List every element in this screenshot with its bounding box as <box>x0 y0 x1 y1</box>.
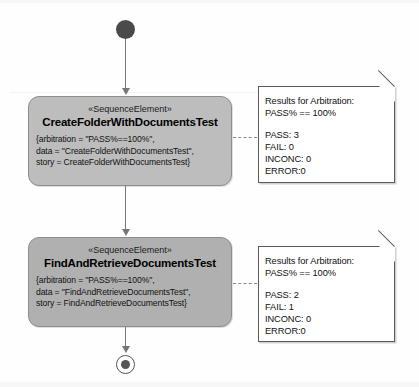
activity-2-property-data: data = "FindAndRetrieveDocumentsTest", <box>36 287 231 299</box>
activity-1-property-story: story = CreateFolderWithDocumentsTest} <box>36 157 231 169</box>
activity-2-property-story: story = FindAndRetrieveDocumentsTest} <box>36 298 231 310</box>
activity-2-title: FindAndRetrieveDocumentsTest <box>29 257 231 269</box>
note-1-result-error: ERROR:0 <box>265 165 394 177</box>
note-1-result-pass: PASS: 3 <box>265 129 394 141</box>
final-node-inner-dot <box>121 360 130 369</box>
note-2-body: Results for Arbitration: PASS% == 100% P… <box>259 247 394 338</box>
scan-artifact <box>10 92 260 93</box>
activity-1-title: CreateFolderWithDocumentsTest <box>29 116 231 128</box>
activity-1-properties: {arbitration = "PASS%==100%", data = "Cr… <box>36 134 231 169</box>
activity-2-property-arbitration: {arbitration = "PASS%==100%", <box>36 275 231 287</box>
note-2-header: Results for Arbitration: <box>265 255 394 267</box>
note-link-activity-1 <box>233 137 257 138</box>
note-fold-corner-icon <box>379 246 395 262</box>
initial-node[interactable] <box>116 20 135 39</box>
note-1-criterion: PASS% == 100% <box>265 107 394 119</box>
arrow-head-final <box>122 346 130 353</box>
arrow-head-activity-1 <box>122 88 130 95</box>
activity-diagram-canvas: «SequenceElement» CreateFolderWithDocume… <box>0 0 419 387</box>
note-1-body: Results for Arbitration: PASS% == 100% P… <box>259 87 394 178</box>
note-results-for-arbitration-2[interactable]: Results for Arbitration: PASS% == 100% P… <box>258 246 395 342</box>
activity-node-create-folder-with-documents-test[interactable]: «SequenceElement» CreateFolderWithDocume… <box>28 96 232 186</box>
note-2-result-inconc: INCONC: 0 <box>265 313 394 325</box>
scan-artifact <box>0 382 419 387</box>
note-2-result-pass: PASS: 2 <box>265 289 394 301</box>
note-2-spacer <box>265 280 394 289</box>
note-1-result-fail: FAIL: 0 <box>265 141 394 153</box>
arrow-head-activity-2 <box>122 229 130 236</box>
note-2-criterion: PASS% == 100% <box>265 267 394 279</box>
activity-1-property-data: data = "CreateFolderWithDocumentsTest", <box>36 146 231 158</box>
note-fold-corner-icon <box>379 86 395 102</box>
note-1-header: Results for Arbitration: <box>265 95 394 107</box>
note-2-result-fail: FAIL: 1 <box>265 301 394 313</box>
note-results-for-arbitration-1[interactable]: Results for Arbitration: PASS% == 100% P… <box>258 86 395 183</box>
activity-final-node[interactable] <box>116 355 135 374</box>
activity-1-stereotype: «SequenceElement» <box>29 104 231 114</box>
activity-1-property-arbitration: {arbitration = "PASS%==100%", <box>36 134 231 146</box>
flow-edge-initial-to-activity-1 <box>125 39 126 90</box>
activity-2-properties: {arbitration = "PASS%==100%", data = "Fi… <box>36 275 231 310</box>
scan-artifact <box>0 0 419 3</box>
activity-node-find-and-retrieve-documents-test[interactable]: «SequenceElement» FindAndRetrieveDocumen… <box>28 237 232 327</box>
flow-edge-activity-1-to-activity-2 <box>125 186 126 231</box>
note-1-result-inconc: INCONC: 0 <box>265 153 394 165</box>
note-1-spacer <box>265 120 394 129</box>
note-link-activity-2 <box>233 283 257 284</box>
note-2-result-error: ERROR:0 <box>265 325 394 337</box>
activity-2-stereotype: «SequenceElement» <box>29 245 231 255</box>
